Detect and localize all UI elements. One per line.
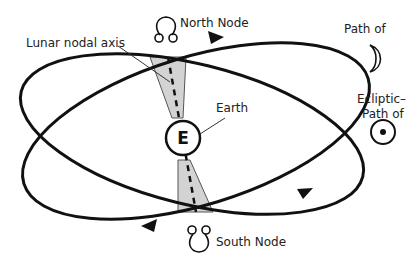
south-node-icon xyxy=(188,226,210,252)
orbit-arrow-right xyxy=(297,188,313,199)
ecliptic-label-line1: Ecliptic– xyxy=(357,92,406,106)
lunar-nodes-diagram: E Earth Lunar nodal axis North Node Sout… xyxy=(0,0,420,267)
ecliptic-label-line2: Path of xyxy=(362,107,405,121)
crescent-moon-icon xyxy=(370,45,381,72)
lunar-nodal-axis-label: Lunar nodal axis xyxy=(26,36,125,50)
north-node-label: North Node xyxy=(180,16,249,30)
north-node-icon xyxy=(155,17,177,42)
earth-label: Earth xyxy=(216,101,248,115)
earth-symbol: E xyxy=(177,128,189,148)
sun-icon xyxy=(371,120,395,144)
orbit-arrow-top xyxy=(208,31,224,44)
south-node-label: South Node xyxy=(216,235,286,249)
orbit-arrow-bottom xyxy=(141,219,157,232)
earth-pointer xyxy=(200,118,225,134)
moon-path-label: Path of xyxy=(344,22,387,36)
